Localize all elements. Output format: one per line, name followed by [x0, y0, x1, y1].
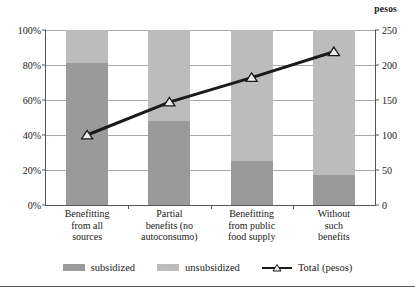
stacked-bar[interactable] [313, 30, 355, 205]
x-axis-category-label: Withoutsuchbenefits [293, 208, 375, 243]
left-axis-tick-label: 40% [23, 130, 41, 141]
legend-swatch-unsubsidized [157, 264, 179, 271]
legend-item-subsidized: subsidized [63, 262, 135, 273]
category-label-line: benefits [295, 231, 373, 243]
legend-marker-total-line-icon [262, 263, 292, 273]
x-axis-category-label: Partialbenefits (noautoconsumo) [128, 208, 210, 243]
category-label-line: from all [48, 220, 126, 232]
stacked-bar[interactable] [148, 30, 190, 205]
category-label-line: such [295, 220, 373, 232]
right-axis-tick-label: 200 [382, 60, 397, 71]
category-label-line: sources [48, 231, 126, 243]
right-axis-tick-label: 50 [382, 165, 392, 176]
left-axis-tick-label: 100% [18, 25, 41, 36]
legend-item-unsubsidized: unsubsidized [157, 262, 240, 273]
legend-label-subsidized: subsidized [91, 262, 135, 273]
legend-label-total-pesos: Total (pesos) [298, 262, 352, 273]
bottom-divider [0, 286, 415, 287]
category-label-line: Benefitting [213, 208, 291, 220]
bar-series [46, 30, 375, 205]
bar-segment-subsidized [66, 63, 108, 205]
category-label-line: food supply [213, 231, 291, 243]
category-label-line: benefits (no [130, 220, 208, 232]
left-axis-tick-label: 20% [23, 165, 41, 176]
category-label-line: from public [213, 220, 291, 232]
right-axis-line [375, 30, 376, 205]
bar-segment-subsidized [148, 121, 190, 205]
left-axis-tick-label: 0% [28, 200, 41, 211]
bar-segment-unsubsidized [66, 30, 108, 63]
bar-segment-unsubsidized [231, 30, 273, 161]
stacked-bar[interactable] [66, 30, 108, 205]
category-label-line: Benefitting [48, 208, 126, 220]
category-label-line: autoconsumo) [130, 231, 208, 243]
stacked-bar[interactable] [231, 30, 273, 205]
bar-slot [293, 30, 375, 205]
right-axis-tick-label: 100 [382, 130, 397, 141]
right-axis-tick-label: 250 [382, 25, 397, 36]
legend-swatch-subsidized [63, 264, 85, 271]
bar-segment-subsidized [313, 175, 355, 205]
bar-segment-unsubsidized [313, 30, 355, 175]
category-label-line: Partial [130, 208, 208, 220]
left-axis-line [45, 30, 46, 205]
x-axis-category-label: Benefittingfrom allsources [46, 208, 128, 243]
bar-slot [128, 30, 210, 205]
bar-slot [46, 30, 128, 205]
x-axis-category-label: Benefittingfrom publicfood supply [211, 208, 293, 243]
plot-area: 0%20%40%60%80%100% 050100150200250 [46, 30, 375, 205]
x-axis-line [45, 205, 376, 206]
x-axis-category-labels: Benefittingfrom allsourcesPartialbenefit… [46, 208, 375, 243]
bar-slot [211, 30, 293, 205]
bar-segment-subsidized [231, 161, 273, 205]
chart-figure: pesos 0%20%40%60%80%100% 050100150200250… [0, 0, 415, 297]
legend-item-total-pesos: Total (pesos) [262, 262, 352, 273]
category-label-line: Without [295, 208, 373, 220]
bar-segment-unsubsidized [148, 30, 190, 121]
right-axis-tick-label: 0 [382, 200, 387, 211]
chart-legend: subsidized unsubsidized Total (pesos) [0, 262, 415, 273]
right-axis-tick-label: 150 [382, 95, 397, 106]
legend-label-unsubsidized: unsubsidized [185, 262, 240, 273]
left-axis-tick-label: 60% [23, 95, 41, 106]
left-axis-tick-label: 80% [23, 60, 41, 71]
right-axis-title: pesos [374, 4, 397, 14]
